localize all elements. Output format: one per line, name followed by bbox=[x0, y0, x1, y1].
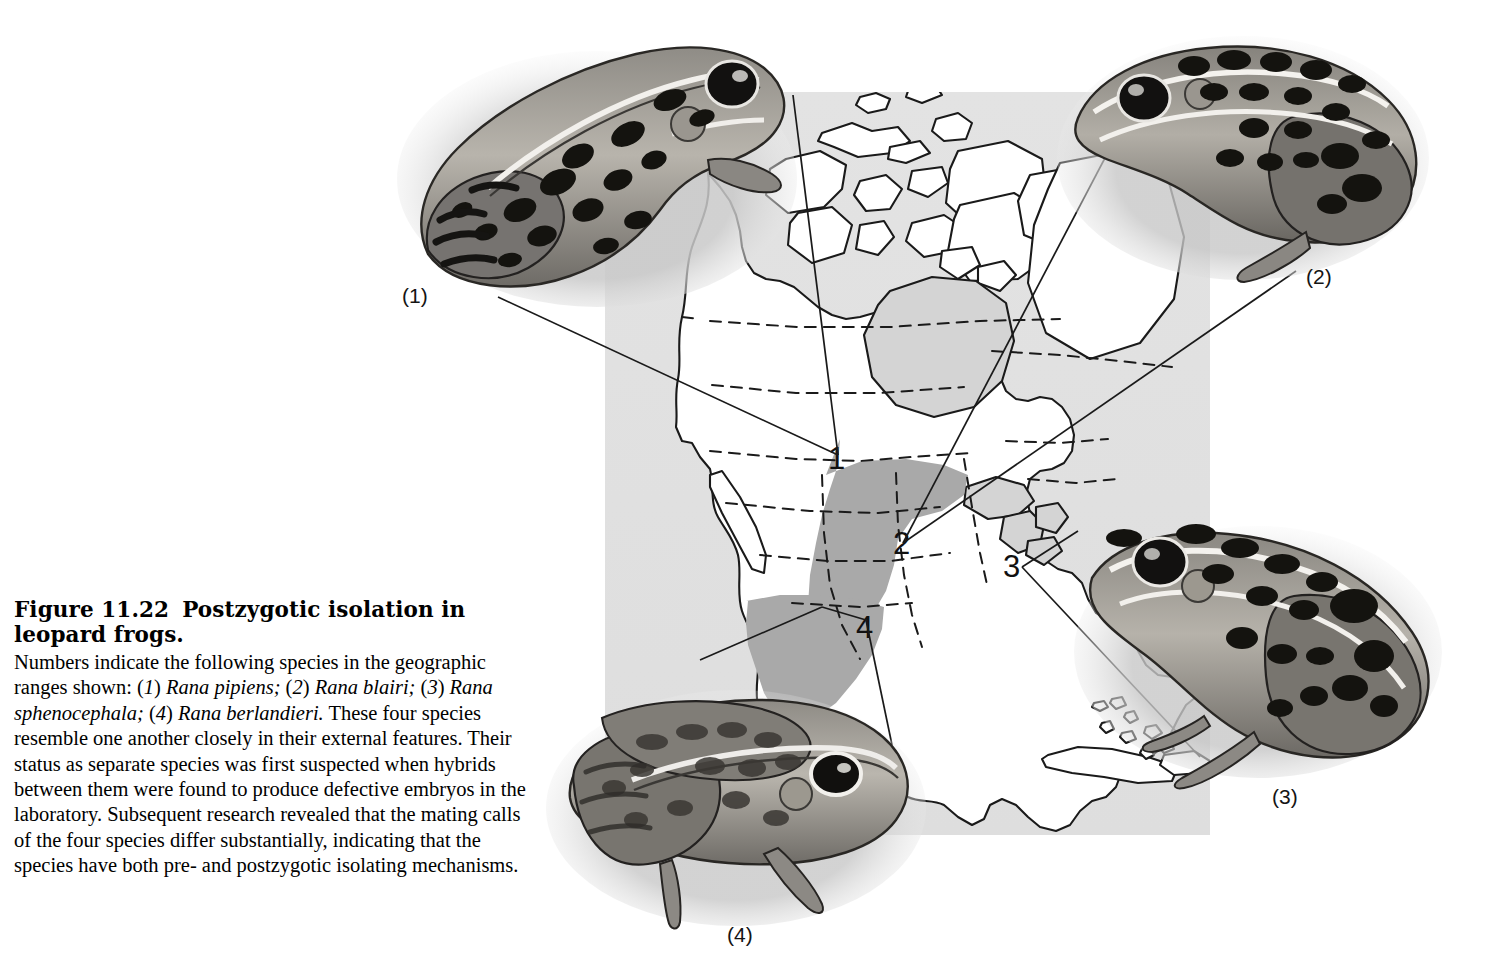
species-name: Rana berlandieri. bbox=[178, 702, 324, 724]
figure-root: 1 2 3 4 bbox=[0, 0, 1488, 979]
caption-num: 3 bbox=[427, 676, 437, 698]
eye-highlight bbox=[1144, 548, 1160, 560]
caption-num: 1 bbox=[144, 676, 154, 698]
caption-num: 2 bbox=[292, 676, 302, 698]
caption-text: ) bbox=[438, 676, 450, 698]
frog-eye bbox=[1133, 538, 1187, 586]
frog-eye bbox=[706, 61, 758, 107]
frog-photo-4 bbox=[540, 668, 935, 938]
frog-eye bbox=[811, 753, 861, 795]
caption-text: ) bbox=[154, 676, 166, 698]
figure-caption-body: Numbers indicate the following species i… bbox=[14, 650, 534, 879]
eye-highlight bbox=[837, 763, 851, 773]
frog-photo-2 bbox=[1048, 8, 1438, 293]
caption-text: ) bbox=[303, 676, 315, 698]
frog-photo-1-label: (1) bbox=[402, 285, 428, 306]
species-name: Rana pipiens; bbox=[166, 676, 280, 698]
frog-photo-3-label: (3) bbox=[1272, 786, 1298, 807]
figure-number: Figure 11.22 bbox=[14, 597, 169, 622]
tympanum bbox=[780, 778, 812, 810]
leader-line-1b bbox=[498, 297, 838, 455]
figure-caption-heading: Figure 11.22Postzygotic isolation in leo… bbox=[14, 597, 534, 647]
caption-text: ( bbox=[415, 676, 427, 698]
frog-photo-1 bbox=[392, 14, 812, 309]
caption-text: ( bbox=[144, 702, 156, 724]
caption-text: ) bbox=[166, 702, 178, 724]
eye-highlight bbox=[1128, 84, 1144, 96]
caption-text: These four species resemble one another … bbox=[14, 702, 526, 876]
caption-num: 4 bbox=[156, 702, 166, 724]
frog-photo-4-label: (4) bbox=[727, 924, 753, 945]
caption-text: ( bbox=[280, 676, 292, 698]
figure-caption: Figure 11.22Postzygotic isolation in leo… bbox=[14, 597, 534, 879]
eye-highlight bbox=[732, 70, 748, 82]
leader-line-4b bbox=[700, 607, 822, 660]
species-name: Rana blairi; bbox=[315, 676, 416, 698]
leader-line-4 bbox=[822, 607, 866, 620]
frog-photo-2-label: (2) bbox=[1306, 266, 1332, 287]
frog-photo-3 bbox=[1068, 500, 1450, 790]
frog-eye bbox=[1118, 75, 1170, 121]
